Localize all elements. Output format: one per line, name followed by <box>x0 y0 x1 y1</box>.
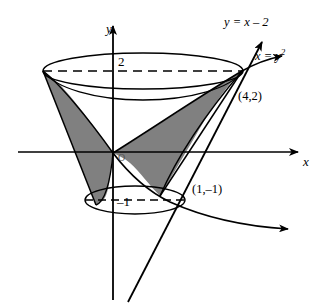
y-axis-label: y <box>106 22 112 35</box>
y-tick-label-neg1: –1 <box>117 195 130 208</box>
parabola-equation-exponent: 2 <box>281 47 286 57</box>
diagram-svg <box>0 0 326 308</box>
figure-canvas: y x O 2 –1 y = x – 2 x = y2 (4,2) (1,–1) <box>0 0 326 308</box>
shaded-region-right <box>113 71 242 196</box>
line-equation-label: y = x – 2 <box>224 16 269 29</box>
point-label-1-neg1: (1,–1) <box>192 183 222 196</box>
x-axis-label: x <box>303 155 309 168</box>
point-label-4-2: (4,2) <box>238 90 262 103</box>
parabola-equation-label: x = y2 <box>255 48 285 63</box>
origin-label: O <box>118 153 125 163</box>
parabola-equation-base: x = y <box>255 49 281 63</box>
y-tick-label-2: 2 <box>118 55 125 68</box>
